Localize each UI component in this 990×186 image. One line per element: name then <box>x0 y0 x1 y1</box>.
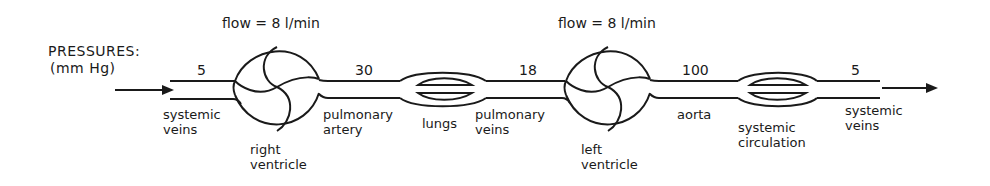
right-ventricle-pump-icon <box>234 47 320 131</box>
circulation-diagram: PRESSURES: (mm Hg) flow = 8 l/min flow =… <box>0 0 990 186</box>
label-pulmonary-veins: pulmonary veins <box>475 107 545 137</box>
outflow-arrow-icon <box>882 83 938 93</box>
flow-label-right: flow = 8 l/min <box>222 16 320 31</box>
pulmonary-veins-tube <box>486 81 570 103</box>
label-lungs: lungs <box>422 116 457 131</box>
pressure-systemic-veins-out: 5 <box>851 63 860 78</box>
label-left-ventricle: left ventricle <box>581 142 638 172</box>
label-right-ventricle: right ventricle <box>250 142 307 172</box>
pressure-systemic-veins-in: 5 <box>197 63 206 78</box>
pressure-pulmonary-veins: 18 <box>519 63 537 78</box>
pressure-pulmonary-artery: 30 <box>355 63 373 78</box>
pulmonary-artery-tube <box>319 80 400 98</box>
label-systemic-veins-out: systemic veins <box>845 103 903 133</box>
aorta-tube <box>650 80 738 98</box>
label-pulmonary-artery: pulmonary artery <box>323 107 393 137</box>
pressure-aorta: 100 <box>682 63 709 78</box>
systemic-veins-in-tube <box>170 81 241 104</box>
circulation-schematic <box>0 0 990 186</box>
lungs-capillary-bed-icon <box>400 73 486 107</box>
left-ventricle-pump-icon <box>565 47 651 131</box>
label-systemic-veins-in: systemic veins <box>163 107 221 137</box>
flow-label-left: flow = 8 l/min <box>558 16 656 31</box>
label-systemic-circulation: systemic circulation <box>738 120 806 150</box>
label-aorta: aorta <box>677 107 711 122</box>
pressures-title: PRESSURES: <box>48 44 140 59</box>
pressures-unit: (mm Hg) <box>50 61 116 76</box>
systemic-circulation-capillary-bed-icon <box>738 73 817 107</box>
systemic-veins-out-tube <box>817 81 880 98</box>
inflow-arrow-icon <box>115 85 174 95</box>
